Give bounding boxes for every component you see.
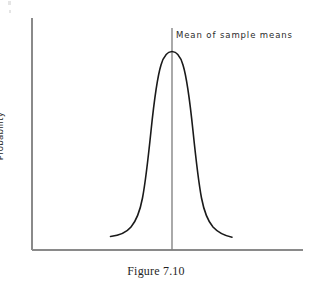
figure-container: Mean of sample means Probability Figure … <box>0 0 312 290</box>
plot-area <box>0 0 312 290</box>
bell-curve <box>111 52 233 238</box>
y-axis-label: Probability <box>0 108 5 164</box>
figure-caption: Figure 7.10 <box>0 264 312 279</box>
mean-annotation-label: Mean of sample means <box>176 31 293 40</box>
